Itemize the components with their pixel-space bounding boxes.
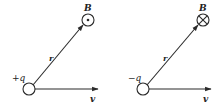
- velocity-label: v: [203, 94, 209, 104]
- charge-label: −q: [128, 73, 142, 83]
- velocity-label: v: [90, 94, 96, 104]
- diagram-negative-charge: −q B r v: [128, 3, 211, 104]
- field-label: B: [83, 3, 92, 13]
- magnetic-field-diagram: +q B r v −q B r v: [0, 0, 218, 106]
- diagram-positive-charge: +q B r v: [12, 3, 98, 104]
- position-vector-arrow: [147, 25, 198, 85]
- field-into-page-icon: [197, 14, 209, 26]
- charge-circle: [137, 83, 149, 95]
- charge-circle: [23, 83, 35, 95]
- position-vector-arrow: [33, 25, 83, 85]
- field-out-of-page-icon: [82, 14, 94, 26]
- charge-label: +q: [12, 73, 26, 83]
- field-label: B: [198, 3, 207, 13]
